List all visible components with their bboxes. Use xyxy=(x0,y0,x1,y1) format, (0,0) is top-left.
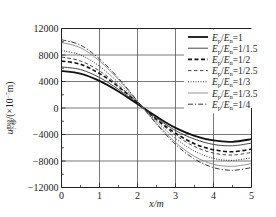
x-tick-label: 4 xyxy=(211,190,216,201)
legend-entry-label: Ep/En=1 xyxy=(211,33,243,44)
x-tick-label: 3 xyxy=(173,190,178,201)
x-tick-label: 0 xyxy=(59,190,64,201)
y-tick-label: −4000 xyxy=(33,129,59,140)
y-tick-label: 0 xyxy=(54,103,59,114)
x-axis-title: x/m xyxy=(148,198,163,209)
y-tick-label: 4000 xyxy=(39,76,59,87)
y-axis-title: umax下移/(×10−7m) xyxy=(5,82,17,135)
y-tick-label: −12000 xyxy=(28,182,59,193)
y-tick-label: 8000 xyxy=(39,50,59,61)
x-tick-label: 5 xyxy=(249,190,254,201)
y-tick-label: −8000 xyxy=(33,156,59,167)
legend: Ep/En=1Ep/En=1/1.5Ep/En=1/2Ep/En=1/2.5Ep… xyxy=(184,30,276,114)
y-tick-label: 12000 xyxy=(34,23,59,34)
chart: Ep/En=1Ep/En=1/1.5Ep/En=1/2Ep/En=1/2.5Ep… xyxy=(0,0,276,217)
x-tick-label: 1 xyxy=(97,190,102,201)
x-tick-label: 2 xyxy=(135,190,140,201)
